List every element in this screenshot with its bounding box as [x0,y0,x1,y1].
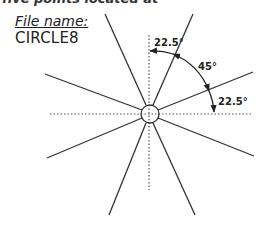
arc-22-5-right [209,91,214,112]
radial-line-upper-right [153,14,193,105]
angle-label-middle: 45° [198,61,217,72]
radial-line-upper-left [105,14,146,105]
radial-line-lower-left [109,123,146,215]
radial-line-lower-right [153,123,195,215]
angle-label-top: 22.5° [154,37,184,48]
dotted-axes [50,35,252,190]
radial-line-right-lower [158,118,254,156]
angle-label-right: 22.5° [218,96,248,107]
radial-line-left-lower [47,118,142,158]
arc-45 [173,54,209,91]
radial-line-left-upper [45,74,142,110]
circle-division-diagram: 22.5° 45° 22.5° [0,0,265,225]
arc-22-5-top [150,51,173,54]
